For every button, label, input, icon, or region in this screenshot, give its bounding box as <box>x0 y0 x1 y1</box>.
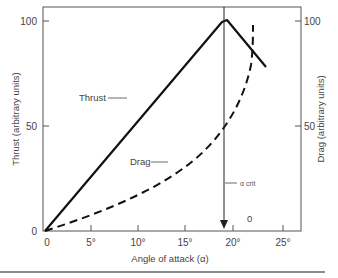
x-axis-title: Angle of attack (α) <box>131 253 208 264</box>
y-tick-100: 100 <box>20 16 37 27</box>
x-tick-5: 5° <box>86 237 96 248</box>
y-right-tick-50: 50 <box>304 121 316 132</box>
x-tick-20: 20° <box>225 237 240 248</box>
x-tick-10: 10° <box>130 237 145 248</box>
zero-mark-label: 0 <box>247 213 252 224</box>
drag-line <box>45 25 253 231</box>
y-axis-title-left: Thrust (arbitrary units) <box>10 72 21 165</box>
y-axis-title-right: Drag (arbitrary units) <box>315 75 326 162</box>
y-right-tick-100: 100 <box>304 16 321 27</box>
arrow-down-icon <box>220 220 228 229</box>
y-tick-0: 0 <box>31 226 37 237</box>
x-tick-25: 25° <box>275 237 290 248</box>
thrust-line <box>45 20 266 231</box>
thrust-label: Thrust <box>79 92 106 103</box>
x-tick-15: 15° <box>177 237 192 248</box>
y-tick-50: 50 <box>26 121 38 132</box>
drag-label: Drag <box>130 156 151 167</box>
chart: 100 50 0 Thrust (arbitrary units) 100 50… <box>0 0 338 278</box>
x-tick-0: 0 <box>44 237 50 248</box>
right-y-axis: 100 50 Drag (arbitrary units) <box>295 16 326 163</box>
plot-frame <box>43 7 301 231</box>
alpha-crit-label: α crit <box>240 180 255 187</box>
